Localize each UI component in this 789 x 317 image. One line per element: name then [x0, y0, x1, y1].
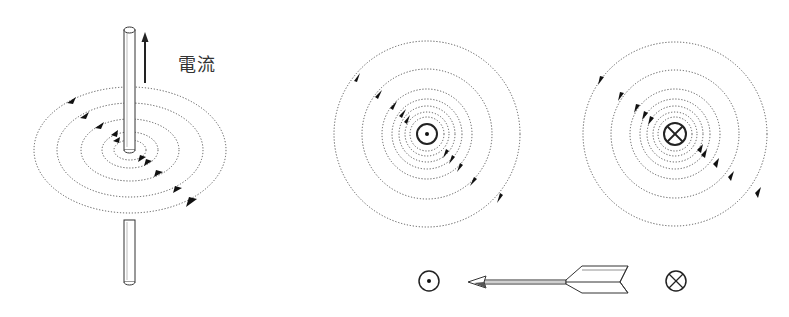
- wire-dot-symbol-icon: [417, 124, 437, 144]
- current-label: 電流: [178, 50, 216, 76]
- arrow-analogy-icon: [468, 266, 628, 293]
- legend-dot-symbol-icon: [419, 271, 439, 291]
- diagram-canvas: [0, 0, 789, 317]
- wire-lower: [124, 220, 135, 285]
- field-out-of-page-panel: [334, 41, 520, 227]
- field-into-page-panel: [583, 42, 767, 226]
- current-arrow-icon: [142, 32, 149, 83]
- legend-cross-symbol-icon: [666, 271, 686, 291]
- wire-upper: [124, 27, 135, 153]
- wire-cross-symbol-icon: [664, 123, 686, 145]
